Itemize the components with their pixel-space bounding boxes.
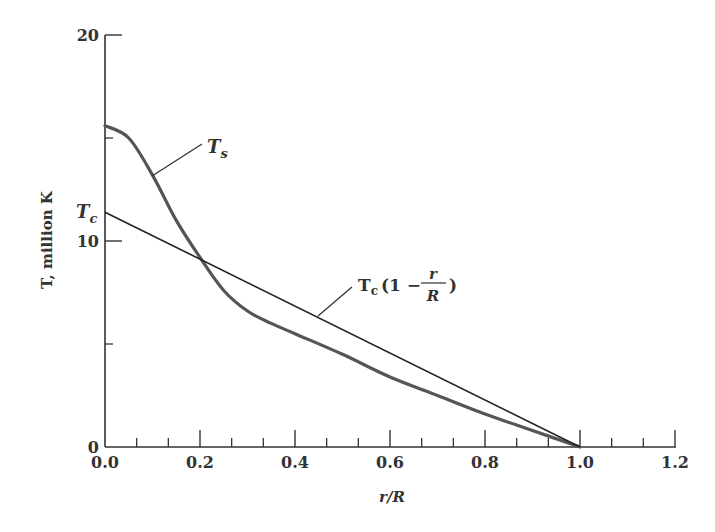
y-tick-label: 10 (77, 232, 99, 251)
y-tick-label: 0 (88, 438, 99, 457)
y-ticks: 01020 (77, 26, 122, 457)
linear-leader-line (318, 287, 352, 316)
svg-text:r: r (429, 265, 438, 283)
x-axis-title: r/R (379, 488, 405, 506)
y-tick-label: 20 (77, 26, 99, 45)
x-tick-label: 1.2 (661, 453, 689, 472)
chart: 0.00.20.40.60.81.01.2 01020 Ts Tc(1 − r … (0, 0, 715, 532)
y-axis-title: T, million K (38, 190, 56, 289)
x-tick-label: 0.2 (186, 453, 214, 472)
x-ticks: 0.00.20.40.60.81.01.2 (91, 430, 689, 472)
tc-axis-label: Tc (76, 201, 97, 226)
series-ts-curve (105, 126, 580, 447)
x-tick-label: 0.8 (471, 453, 499, 472)
svg-text:): ) (449, 275, 457, 295)
x-tick-label: 0.4 (281, 453, 309, 472)
svg-text:R: R (426, 287, 439, 305)
ts-leader-line (152, 144, 202, 176)
x-tick-label: 1.0 (566, 453, 594, 472)
linear-label: Tc(1 − r R ) (358, 265, 457, 305)
series-linear-line (105, 212, 580, 447)
svg-text:Tc(1 −: Tc(1 − (358, 275, 421, 298)
ts-label: Ts (207, 136, 228, 161)
x-tick-label: 0.6 (376, 453, 404, 472)
